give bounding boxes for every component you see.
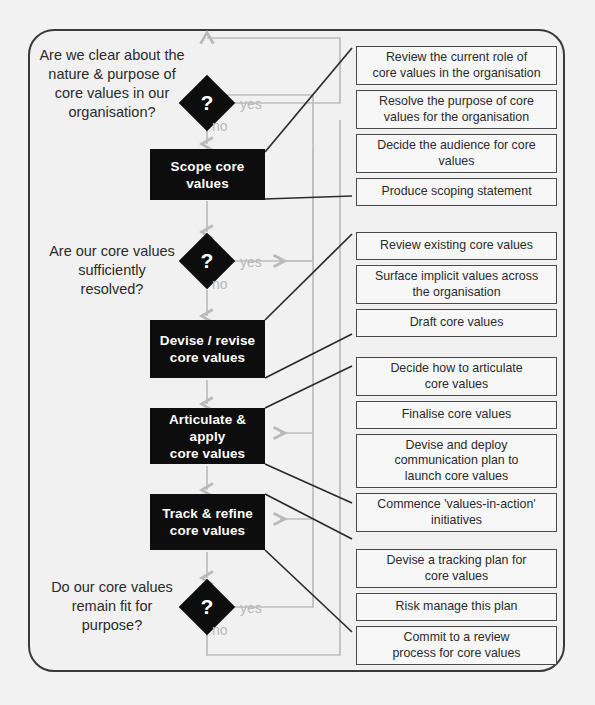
task-box[interactable]: Decide how to articulate core values bbox=[356, 357, 557, 396]
branch-label-no-2: no bbox=[212, 277, 228, 291]
branch-label-no-3: no bbox=[212, 623, 228, 637]
question-text-2: Are our core values sufficiently resolve… bbox=[26, 242, 198, 299]
task-box[interactable]: Devise a tracking plan for core values bbox=[356, 549, 557, 588]
task-box[interactable]: Review existing core values bbox=[356, 232, 557, 260]
question-text-1: Are we clear about the nature & purpose … bbox=[26, 46, 198, 122]
task-box[interactable]: Commence 'values-in-action' initiatives bbox=[356, 493, 557, 532]
task-box[interactable]: Decide the audience for core values bbox=[356, 134, 557, 173]
flowchart-page: Are we clear about the nature & purpose … bbox=[0, 0, 595, 705]
process-box-devise-revise-core-values[interactable]: Devise / revise core values bbox=[150, 320, 265, 378]
task-box[interactable]: Draft core values bbox=[356, 309, 557, 337]
task-box[interactable]: Produce scoping statement bbox=[356, 178, 557, 206]
task-box[interactable]: Commit to a review process for core valu… bbox=[356, 626, 557, 665]
question-text-3: Do our core values remain fit for purpos… bbox=[26, 578, 198, 635]
branch-label-no-1: no bbox=[212, 119, 228, 133]
task-box[interactable]: Resolve the purpose of core values for t… bbox=[356, 90, 557, 129]
process-box-articulate-apply-core-values[interactable]: Articulate & apply core values bbox=[150, 408, 265, 464]
task-box[interactable]: Devise and deploy communication plan to … bbox=[356, 434, 557, 488]
task-box[interactable]: Surface implicit values across the organ… bbox=[356, 265, 557, 304]
branch-label-yes-1: yes bbox=[240, 97, 262, 111]
task-box[interactable]: Risk manage this plan bbox=[356, 593, 557, 621]
process-box-scope-core-values[interactable]: Scope core values bbox=[150, 149, 265, 200]
task-box[interactable]: Finalise core values bbox=[356, 401, 557, 429]
branch-label-yes-3: yes bbox=[240, 601, 262, 615]
branch-label-yes-2: yes bbox=[240, 255, 262, 269]
process-box-track-refine-core-values[interactable]: Track & refine core values bbox=[150, 494, 265, 550]
task-box[interactable]: Review the current role of core values i… bbox=[356, 46, 557, 85]
